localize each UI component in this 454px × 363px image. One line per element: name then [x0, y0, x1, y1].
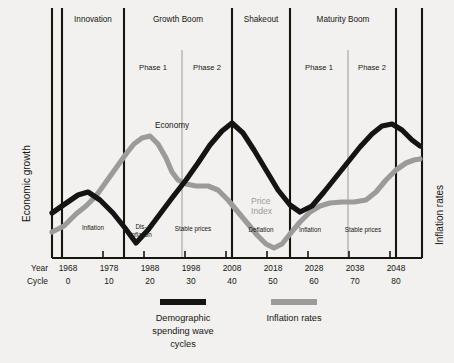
annotation-stable-prices-2: Stable prices	[345, 226, 381, 234]
cycle-label-5: 50	[268, 276, 278, 286]
annotation-dis: Dis-	[135, 223, 146, 230]
axis-row-label-year: Year	[31, 263, 48, 273]
curve-label-index: Index	[251, 206, 273, 216]
era-label-maturity-boom: Maturity Boom	[317, 15, 370, 24]
cycle-label-3: 30	[186, 276, 196, 286]
economic-cycle-chart: Innovation Growth Boom Shakeout Maturity…	[0, 0, 454, 363]
cycle-label-8: 80	[391, 276, 401, 286]
cycle-label-6: 60	[309, 276, 319, 286]
legend-swatch-demographic	[160, 299, 206, 305]
legend-label-demographic-2: spending wave	[152, 326, 213, 336]
phase-label-growth-2: Phase 2	[193, 63, 221, 72]
curve-label-price: Price	[251, 196, 271, 206]
curve-label-economy: Economy	[155, 121, 190, 130]
legend-swatch-inflation	[271, 299, 317, 305]
annotation-inflation-2: inflation	[130, 231, 152, 238]
annotation-deflation: Deflation	[249, 226, 274, 233]
year-label-0: 1968	[59, 263, 78, 273]
year-label-6: 2028	[305, 263, 324, 273]
phase-label-maturity-1: Phase 1	[305, 63, 333, 72]
cycle-label-0: 0	[66, 276, 71, 286]
legend-label-demographic-3: cycles	[170, 339, 196, 349]
cycle-label-1: 10	[104, 276, 114, 286]
cycle-label-2: 20	[145, 276, 155, 286]
legend-label-inflation-1: Inflation rates	[266, 313, 322, 323]
year-label-2: 1988	[141, 263, 160, 273]
legend-label-demographic-1: Demographic	[156, 313, 211, 323]
annotation-inflation-3: Inflation	[299, 226, 322, 233]
year-label-3: 1998	[182, 263, 201, 273]
year-label-4: 2008	[223, 263, 242, 273]
cycle-label-4: 40	[227, 276, 237, 286]
y-axis-label-right: Inflation rates	[434, 185, 445, 245]
era-label-innovation: Innovation	[74, 15, 112, 24]
cycle-label-7: 70	[350, 276, 360, 286]
phase-label-growth-1: Phase 1	[139, 63, 167, 72]
year-tick-labels: 1968 1978 1988 1998 2008 2018 2028 2038 …	[59, 263, 406, 273]
axis-row-label-cycle: Cycle	[27, 276, 48, 286]
era-label-growth-boom: Growth Boom	[153, 15, 203, 24]
phase-label-maturity-2: Phase 2	[358, 63, 386, 72]
annotation-stable-prices-1: Stable prices	[175, 225, 211, 233]
year-label-1: 1978	[100, 263, 119, 273]
era-label-shakeout: Shakeout	[244, 15, 279, 24]
y-axis-label-left: Economic growth	[21, 145, 32, 222]
year-label-5: 2018	[264, 263, 283, 273]
year-label-8: 2048	[387, 263, 406, 273]
chart-root: Innovation Growth Boom Shakeout Maturity…	[0, 0, 454, 363]
annotation-inflation-1: Inflation	[82, 224, 105, 231]
year-label-7: 2038	[346, 263, 365, 273]
